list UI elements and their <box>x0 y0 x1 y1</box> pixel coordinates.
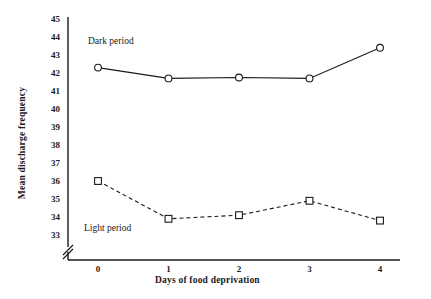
y-tick-label: 41 <box>51 86 61 96</box>
x-tick-label: 4 <box>378 264 383 274</box>
x-tick-label: 3 <box>307 264 312 274</box>
data-point-marker <box>306 197 313 204</box>
data-point-marker <box>165 215 172 222</box>
data-point-marker <box>95 64 102 71</box>
y-axis: 33343536373839404142434445 <box>51 14 73 260</box>
figure: 33343536373839404142434445 01234 Mean di… <box>0 0 431 299</box>
y-tick-label: 36 <box>51 176 61 186</box>
y-tick-label: 44 <box>51 32 61 42</box>
y-tick-label: 33 <box>51 230 61 240</box>
x-tick-label: 1 <box>166 264 171 274</box>
y-tick-label: 42 <box>51 68 61 78</box>
data-point-marker <box>95 178 102 185</box>
y-axis-title: Mean discharge frequency <box>17 63 27 223</box>
y-tick-label: 39 <box>51 122 61 132</box>
y-tick-label: 40 <box>51 104 61 114</box>
y-tick-label: 35 <box>51 194 61 204</box>
data-point-marker <box>236 212 243 219</box>
y-tick-label: 37 <box>51 158 61 168</box>
data-point-marker <box>236 74 243 81</box>
data-point-marker <box>306 75 313 82</box>
data-point-marker <box>165 75 172 82</box>
y-tick-label: 43 <box>51 50 61 60</box>
series-label-light-period: Light period <box>84 223 131 233</box>
data-point-marker <box>377 44 384 51</box>
x-axis: 01234 <box>68 260 400 274</box>
y-tick-label: 34 <box>51 212 61 222</box>
y-tick-label: 45 <box>51 14 61 24</box>
x-axis-title: Days of food deprivation <box>155 275 260 285</box>
x-tick-label: 0 <box>96 264 101 274</box>
line-chart: 33343536373839404142434445 01234 <box>0 0 431 299</box>
x-tick-label: 2 <box>237 264 242 274</box>
y-tick-label: 38 <box>51 140 61 150</box>
data-point-marker <box>377 217 384 224</box>
data-series-group <box>95 44 384 224</box>
series-label-dark-period: Dark period <box>88 36 134 46</box>
